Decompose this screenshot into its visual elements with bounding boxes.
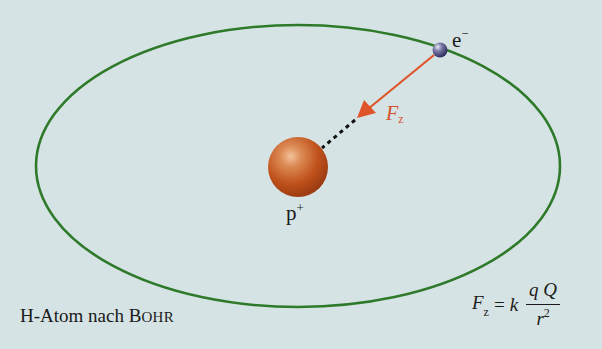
formula-constant: k bbox=[510, 294, 518, 316]
proton-sphere bbox=[268, 137, 328, 197]
formula-fraction: q Q r2 bbox=[526, 279, 560, 330]
bohr-atom-diagram: e− p+ Fz H-Atom nach BOHR Fz = k q Q r2 bbox=[0, 0, 602, 349]
force-arrow-head-icon bbox=[357, 100, 376, 118]
dotted-connector bbox=[322, 120, 355, 148]
formula-lhs: Fz bbox=[472, 292, 489, 318]
electron-label: e− bbox=[452, 30, 469, 51]
force-arrow-shaft bbox=[368, 55, 434, 109]
force-label: Fz bbox=[386, 103, 404, 123]
figure-caption: H-Atom nach BOHR bbox=[20, 306, 174, 325]
formula-equals: = bbox=[494, 294, 505, 316]
formula-denominator: r2 bbox=[536, 305, 549, 330]
proton-label: p+ bbox=[286, 203, 304, 224]
coulomb-formula: Fz = k q Q r2 bbox=[472, 279, 560, 330]
formula-numerator: q Q bbox=[526, 279, 560, 305]
electron-sphere bbox=[433, 43, 448, 58]
